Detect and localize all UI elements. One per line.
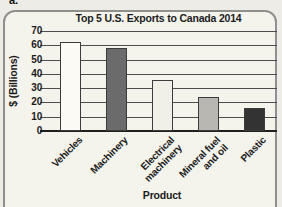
- y-tick-label: 50: [14, 54, 42, 65]
- bar-vehicles: [60, 42, 81, 131]
- bar-machinery: [106, 48, 127, 131]
- y-tick-label: 60: [14, 39, 42, 50]
- bar-mineral-fuel: [198, 97, 219, 131]
- chart-title: Top 5 U.S. Exports to Canada 2014: [40, 12, 277, 24]
- bar-plastic: [244, 108, 265, 131]
- figure-label: a.: [9, 0, 18, 6]
- x-axis-title: Product: [47, 189, 277, 201]
- chart-panel: [3, 10, 277, 207]
- y-tick-label: 20: [14, 96, 42, 107]
- y-tick-label: 30: [14, 82, 42, 93]
- y-tick-label: 40: [14, 68, 42, 79]
- y-tick-label: 70: [14, 25, 42, 36]
- y-tick-label: 10: [14, 111, 42, 122]
- y-tick-label: 0: [14, 125, 42, 136]
- gridline: [40, 31, 277, 32]
- bar-electrical: [152, 80, 173, 131]
